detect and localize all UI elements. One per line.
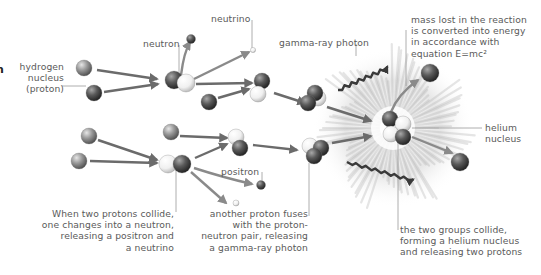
positron-particle <box>257 181 266 190</box>
label-neutron: neutron <box>143 38 180 49</box>
proton-particle <box>306 148 322 164</box>
arrow-neutrino-top <box>194 52 249 79</box>
released-proton-particle <box>451 153 469 171</box>
arrow-proton1-to-pair <box>97 70 157 79</box>
proton-particle <box>71 153 87 169</box>
released-proton-particle <box>421 64 439 82</box>
arrow-to-he3-bottom <box>253 145 297 150</box>
arrow-positron-top <box>181 42 190 75</box>
neutrino-particle <box>233 200 239 206</box>
proton-particle <box>201 94 217 110</box>
label-helium-nucleus: helium nucleus <box>485 122 521 144</box>
proton-particle <box>76 60 92 76</box>
neutrino-particle <box>250 47 255 52</box>
label-step1-protons-collide: When two protons collide, one changes in… <box>24 208 174 253</box>
proton-particle <box>86 85 102 101</box>
positron-particle <box>187 35 196 44</box>
arrow-to-deuteron-top <box>196 83 252 84</box>
label-gamma-ray-photon: gamma-ray photon <box>279 37 369 48</box>
cropped-heading-fragment: n <box>0 63 4 76</box>
label-step2-proton-fuses: another proton fuses with the proton- ne… <box>190 208 308 253</box>
proton-particle <box>250 86 266 102</box>
label-neutrino: neutrino <box>211 13 250 24</box>
label-positron: positron <box>221 166 259 177</box>
proton-particle <box>300 95 316 111</box>
arrow-to-deuteron-bottom <box>195 144 227 158</box>
helium-neutron-particle <box>395 129 411 145</box>
arrow-proton2b-to-pair <box>90 161 157 163</box>
proton-particle <box>163 124 179 140</box>
proton-particle <box>177 74 195 92</box>
neutron-particle <box>232 140 248 156</box>
proton-particle <box>81 128 97 144</box>
arrow-proton3-bottom <box>180 136 227 138</box>
arrow-proton3-top <box>218 89 249 98</box>
arrow-proton2-to-pair <box>104 84 158 92</box>
label-step3-groups-collide: the two groups collide, forming a helium… <box>400 224 522 258</box>
arrow-proton1b-to-pair <box>98 140 157 160</box>
neutron-particle <box>173 155 191 173</box>
label-hydrogen-nucleus: hydrogen nucleus (proton) <box>14 61 64 95</box>
burst-ray <box>392 44 393 114</box>
proton-proton-chain-diagram: n hydrogen nucleus (proton) neutron neut… <box>0 0 541 275</box>
label-mass-lost-energy: mass lost in the reaction is converted i… <box>411 14 527 59</box>
